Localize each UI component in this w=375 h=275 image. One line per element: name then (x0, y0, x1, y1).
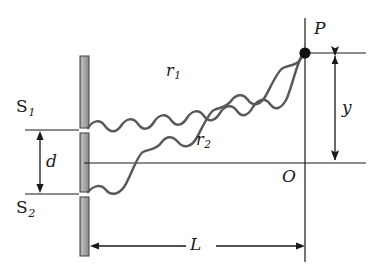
label-screen-center: O (282, 168, 296, 185)
label-screen-distance: L (190, 236, 201, 253)
label-point-p: P (314, 20, 325, 37)
wave-path-r2 (88, 53, 305, 194)
label-slit-separation: d (46, 153, 57, 170)
barrier-group (80, 56, 89, 256)
label-path-r2: r2 (196, 132, 211, 150)
label-path-r1: r1 (166, 63, 181, 81)
barrier-segment-bottom (80, 197, 89, 256)
diagram-canvas (0, 0, 375, 275)
dimension-d (36, 131, 43, 193)
barrier-segment-top (80, 56, 89, 128)
double-slit-diagram: S1 S2 d r1 r2 L y P O (0, 0, 375, 275)
label-slit-bottom: S2 (16, 199, 35, 219)
wave-path-r1 (88, 53, 305, 131)
dimension-y (332, 56, 339, 160)
label-slit-top: S1 (16, 98, 35, 118)
label-fringe-offset: y (342, 99, 352, 116)
